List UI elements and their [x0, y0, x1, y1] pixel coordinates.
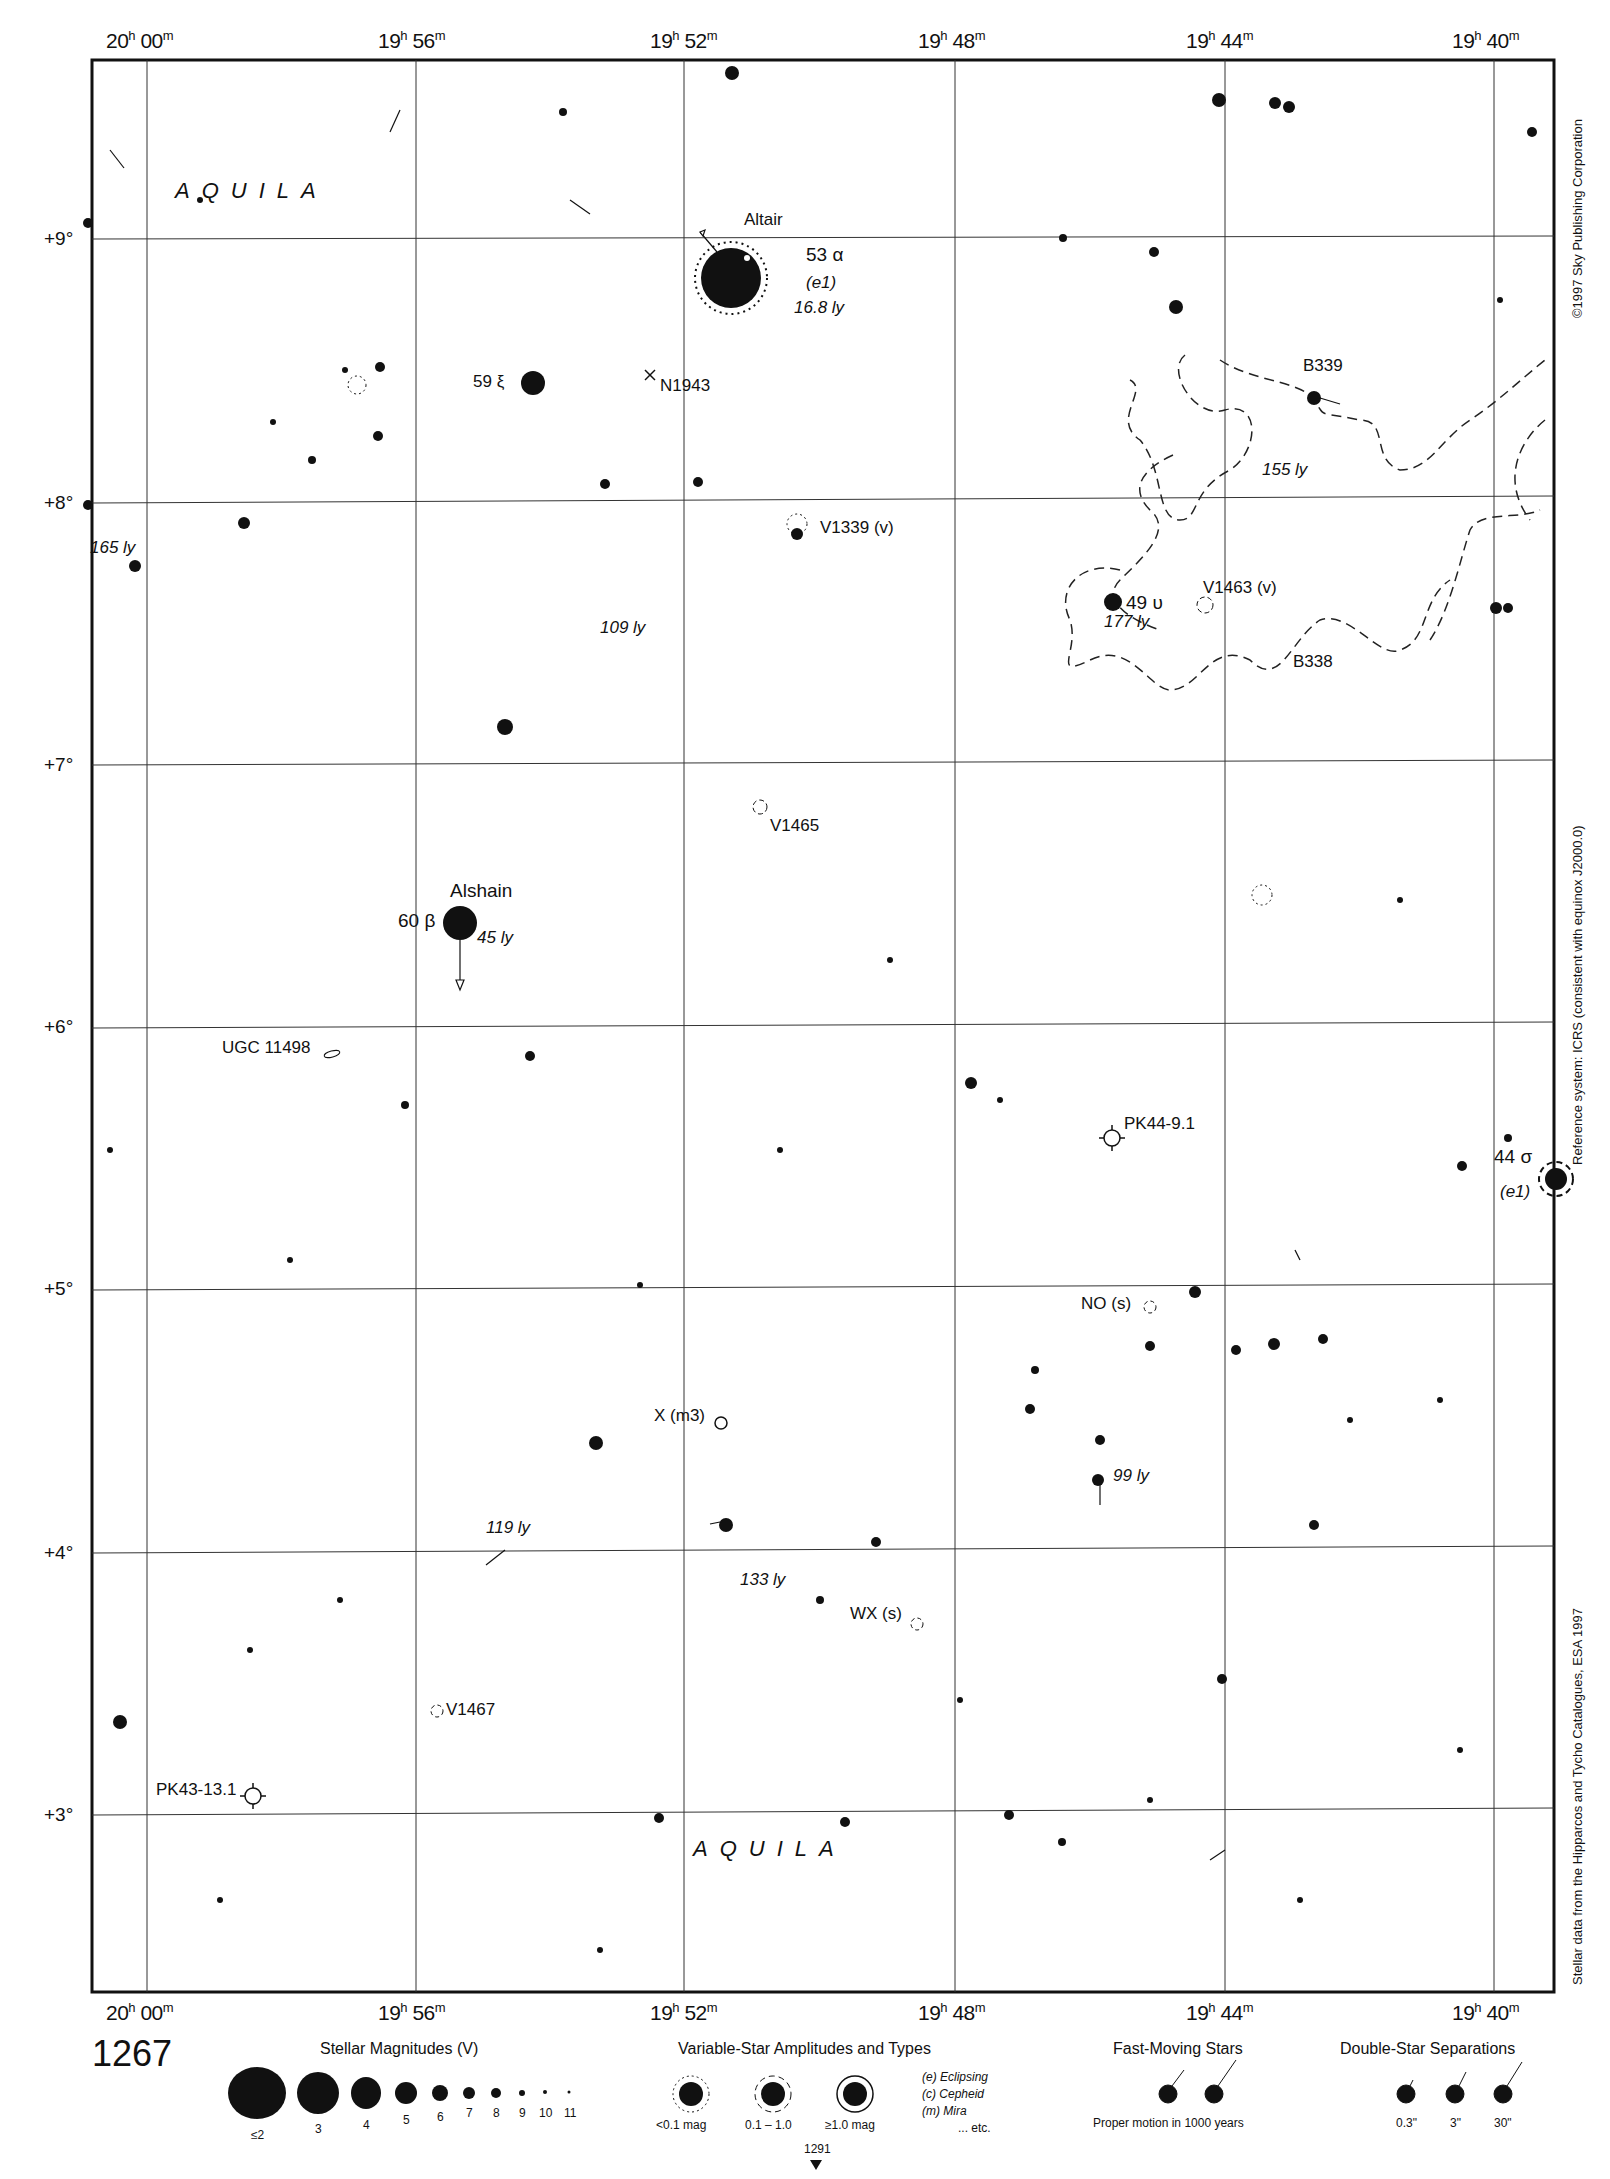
reference-system-note: Reference system: ICRS (consistent with … — [1570, 825, 1585, 1165]
ra-label-top-1952: 19h 52m — [650, 28, 717, 53]
dark-nebula-outline — [1066, 355, 1545, 690]
legend-fast-moving-title: Fast-Moving Stars — [1113, 2040, 1243, 2058]
label-45-ly: 45 ly — [477, 928, 513, 948]
legend-mag-4: 4 — [363, 2118, 370, 2132]
proper-motion-vectors — [110, 110, 1340, 1860]
label-b339: B339 — [1303, 356, 1343, 376]
copyright-note: ©1997 Sky Publishing Corporation — [1570, 119, 1585, 318]
label-x-m3: X (m3) — [654, 1406, 705, 1426]
label-v1465: V1465 — [770, 816, 819, 836]
dec-label-3: +3° — [44, 1804, 73, 1826]
legend-mag-3: 3 — [315, 2122, 322, 2136]
legend-sep-3: 3" — [1450, 2116, 1461, 2130]
legend-variable-title: Variable-Star Amplitudes and Types — [678, 2040, 931, 2058]
legend-type-mira: (m) Mira — [922, 2104, 967, 2118]
legend-sep-30: 30" — [1494, 2116, 1512, 2130]
legend-type-cepheid: (c) Cepheid — [922, 2087, 984, 2101]
dec-label-7: +7° — [44, 754, 73, 776]
dec-label-9: +9° — [44, 228, 73, 250]
dec-label-6: +6° — [44, 1016, 73, 1038]
legend-type-eclipsing: (e) Eclipsing — [922, 2070, 988, 2084]
ra-label-bottom-1948: 19h 48m — [918, 2000, 985, 2025]
label-59-xi: 59 ξ — [473, 372, 504, 392]
ra-label-bottom-1944: 19h 44m — [1186, 2000, 1253, 2025]
legend-mag-11: 11 — [564, 2106, 576, 2120]
label-altair-variable: (e1) — [806, 273, 836, 293]
label-177-ly: 177 ly — [1104, 612, 1149, 632]
legend-variable-symbols — [673, 2076, 873, 2112]
dec-grid — [92, 236, 1554, 1815]
constellation-label-bottom: AQUILA — [693, 1836, 846, 1862]
legend-mag-le2: ≤2 — [251, 2128, 264, 2142]
dec-label-5: +5° — [44, 1278, 73, 1300]
legend-mag-9: 9 — [519, 2106, 526, 2120]
label-165-ly: 165 ly — [90, 538, 135, 558]
galaxy-ugc11498 — [323, 1049, 340, 1059]
label-v1463: V1463 (v) — [1203, 578, 1277, 598]
label-49-upsilon: 49 υ — [1126, 592, 1163, 614]
ra-grid — [147, 60, 1494, 1992]
planetary-nebula-pk43 — [240, 1783, 266, 1809]
ra-label-bottom-1952: 19h 52m — [650, 2000, 717, 2025]
legend-fast-moving-symbols — [1159, 2060, 1236, 2103]
ra-label-top-1956: 19h 56m — [378, 28, 445, 53]
legend-type-etc: ... etc. — [958, 2121, 991, 2135]
label-b338: B338 — [1293, 652, 1333, 672]
label-53-alpha: 53 α — [806, 244, 843, 266]
legend-mag-10: 10 — [539, 2106, 552, 2120]
data-source-note: Stellar data from the Hipparcos and Tych… — [1570, 1608, 1585, 1985]
legend-mag-5: 5 — [403, 2113, 410, 2127]
legend-mag-8: 8 — [493, 2106, 500, 2120]
label-v1467: V1467 — [446, 1700, 495, 1720]
label-119-ly: 119 ly — [486, 1518, 530, 1538]
legend-double-star-title: Double-Star Separations — [1340, 2040, 1515, 2058]
ra-label-bottom-1940: 19h 40m — [1452, 2000, 1519, 2025]
continuation-arrow[interactable] — [810, 2160, 822, 2170]
dec-label-8: +8° — [44, 492, 73, 514]
label-109-ly: 109 ly — [600, 618, 645, 638]
label-133-ly: 133 ly — [740, 1570, 785, 1590]
label-ugc-11498: UGC 11498 — [222, 1038, 311, 1058]
legend-proper-motion-note: Proper motion in 1000 years — [1093, 2116, 1244, 2130]
ra-label-top-1944: 19h 44m — [1186, 28, 1253, 53]
ra-label-top-2000: 20h 00m — [106, 28, 173, 53]
constellation-label-top: AQUILA — [175, 178, 328, 204]
label-wx-s: WX (s) — [850, 1604, 902, 1624]
label-alshain: Alshain — [450, 880, 512, 902]
chart-frame — [92, 60, 1554, 1992]
star-field — [83, 66, 1567, 1953]
label-44-sigma: 44 σ — [1494, 1146, 1532, 1168]
legend-sep-0-3: 0.3" — [1396, 2116, 1417, 2130]
chart-number: 1267 — [92, 2033, 172, 2075]
ra-label-top-1940: 19h 40m — [1452, 28, 1519, 53]
label-v1339: V1339 (v) — [820, 518, 894, 538]
ra-label-top-1948: 19h 48m — [918, 28, 985, 53]
ra-label-bottom-2000: 20h 00m — [106, 2000, 173, 2025]
label-99-ly: 99 ly — [1113, 1466, 1149, 1486]
label-no-s: NO (s) — [1081, 1294, 1131, 1314]
legend-amp-mid: 0.1 – 1.0 — [745, 2118, 792, 2132]
planetary-nebula-pk44 — [1099, 1125, 1125, 1151]
legend-mag-6: 6 — [437, 2110, 444, 2124]
dec-label-4: +4° — [44, 1542, 73, 1564]
label-n1943: N1943 — [660, 376, 710, 396]
continuation-page-label[interactable]: 1291 — [804, 2142, 831, 2156]
label-altair: Altair — [744, 210, 783, 230]
label-60-beta: 60 β — [398, 910, 435, 932]
legend-amp-high: ≥1.0 mag — [825, 2118, 875, 2132]
ra-label-bottom-1956: 19h 56m — [378, 2000, 445, 2025]
legend-mag-7: 7 — [466, 2106, 473, 2120]
n1943-marker — [645, 370, 655, 380]
label-155-ly: 155 ly — [1262, 460, 1307, 480]
label-pk43-13-1: PK43-13.1 — [156, 1780, 236, 1800]
legend-double-star-symbols — [1397, 2062, 1522, 2103]
legend-amp-low: <0.1 mag — [656, 2118, 706, 2132]
label-sigma-variable: (e1) — [1500, 1182, 1530, 1202]
label-pk44-9-1: PK44-9.1 — [1124, 1114, 1195, 1134]
legend-magnitudes-title: Stellar Magnitudes (V) — [320, 2040, 478, 2058]
label-altair-distance: 16.8 ly — [794, 298, 844, 318]
mira-variable-x — [715, 1417, 727, 1429]
